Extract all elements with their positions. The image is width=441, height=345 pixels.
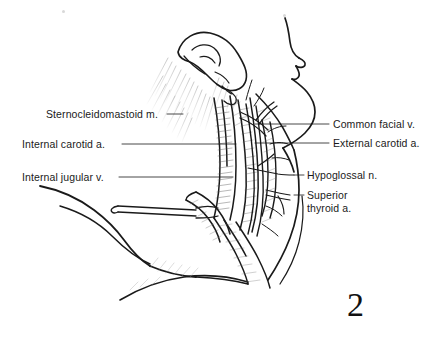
platysma-icon bbox=[214, 218, 270, 288]
hypoglossal-nerve-icon bbox=[248, 154, 294, 175]
facial-profile-icon bbox=[283, 18, 315, 172]
label-internal-jugular: Internal jugular v. bbox=[22, 171, 104, 184]
skin-flap-icon bbox=[186, 192, 230, 242]
chest-contour-icon bbox=[120, 276, 248, 300]
scan-speck bbox=[62, 10, 65, 13]
label-superior-thyroid: Superior thyroid a. bbox=[307, 189, 351, 214]
label-sternocleidomastoid: Sternocleidomastoid m. bbox=[46, 108, 158, 121]
hair-stipple-icon bbox=[147, 58, 237, 142]
scan-speck bbox=[283, 14, 286, 17]
shoulder-contour-icon bbox=[40, 186, 196, 277]
mandible-border-icon bbox=[256, 94, 294, 150]
label-internal-carotid: Internal carotid a. bbox=[22, 138, 105, 151]
label-hypoglossal-nerve: Hypoglossal n. bbox=[307, 169, 377, 182]
figure-page: Sternocleidomastoid m. Internal carotid … bbox=[0, 0, 441, 345]
label-common-facial-vein: Common facial v. bbox=[333, 118, 415, 131]
superior-thyroid-artery-icon bbox=[266, 190, 290, 214]
chest-shade-icon bbox=[130, 258, 198, 290]
figure-number: 2 bbox=[347, 288, 364, 322]
sternocleidomastoid-icon bbox=[214, 96, 236, 220]
label-external-carotid: External carotid a. bbox=[333, 137, 420, 150]
leader-lines bbox=[119, 114, 329, 195]
auricle-detail-icon bbox=[184, 45, 232, 94]
